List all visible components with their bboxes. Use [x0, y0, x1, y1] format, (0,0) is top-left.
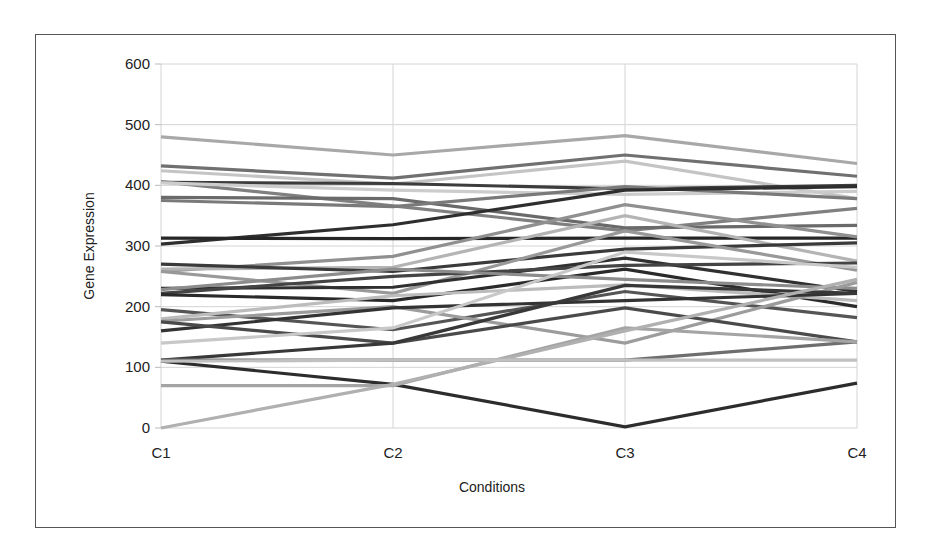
series-line-gene10: [161, 238, 857, 239]
series-line-gene13: [161, 243, 857, 272]
series-line-gene2: [161, 155, 857, 178]
y-tick-label: 600: [125, 55, 150, 72]
x-axis-title: Conditions: [459, 479, 525, 495]
x-axis-ticks: C1C2C3C4: [151, 444, 866, 461]
y-tick-label: 0: [142, 419, 150, 436]
x-tick-label: C2: [383, 444, 402, 461]
x-tick-label: C1: [151, 444, 170, 461]
series-line-gene1: [161, 136, 857, 164]
y-axis-title: Gene Expression: [81, 192, 97, 299]
data-series: [161, 136, 857, 428]
y-tick-label: 400: [125, 176, 150, 193]
x-tick-label: C3: [615, 444, 634, 461]
series-line-gene30: [161, 360, 857, 361]
y-tick-label: 500: [125, 116, 150, 133]
series-line-gene27: [161, 361, 857, 427]
y-tick-label: 300: [125, 237, 150, 254]
x-tick-label: C4: [847, 444, 866, 461]
y-tick-label: 200: [125, 298, 150, 315]
y-axis-ticks: 0100200300400500600: [125, 55, 161, 436]
y-tick-label: 100: [125, 358, 150, 375]
line-chart: 0100200300400500600 C1C2C3C4 Conditions …: [0, 0, 931, 555]
